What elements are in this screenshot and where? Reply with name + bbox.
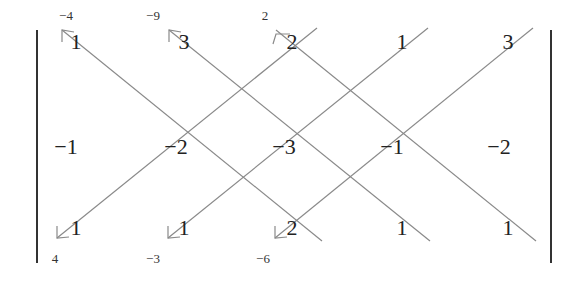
matrix-cell: 1 — [179, 217, 190, 239]
top-product: 2 — [262, 9, 269, 22]
matrix-cell: 3 — [179, 31, 190, 53]
matrix-cell: −3 — [272, 136, 295, 158]
bottom-product: −3 — [146, 252, 160, 265]
bottom-product: 4 — [52, 252, 59, 265]
matrix-cell: 1 — [503, 217, 514, 239]
matrix-cell: 1 — [71, 217, 82, 239]
matrix-cell: −1 — [54, 136, 77, 158]
matrix-cell: 1 — [397, 31, 408, 53]
top-product: −4 — [59, 9, 73, 22]
matrix-cell: 1 — [71, 31, 82, 53]
matrix-cell: 1 — [397, 217, 408, 239]
matrix-cell: −2 — [487, 136, 510, 158]
matrix-cell: 2 — [287, 31, 298, 53]
matrix-cell: 3 — [503, 31, 514, 53]
matrix-cell: −2 — [164, 136, 187, 158]
diagonal-up-2 — [168, 28, 428, 238]
diagonal-up-1 — [57, 28, 317, 238]
bottom-product: −6 — [256, 252, 270, 265]
top-product: −9 — [146, 9, 160, 22]
matrix-cell: 2 — [287, 217, 298, 239]
matrix-cell: −1 — [380, 136, 403, 158]
